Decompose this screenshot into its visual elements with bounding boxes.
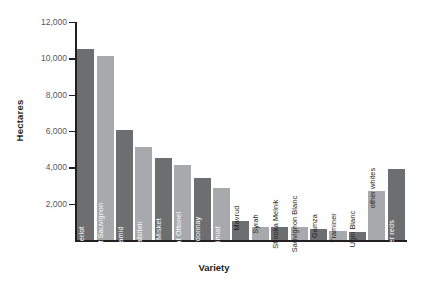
- bar-category-label: Sauvignon Blanc: [290, 196, 299, 252]
- bar-category-label: Cabernet Sauvignon: [96, 203, 105, 271]
- y-axis-tick: [69, 131, 75, 132]
- bar[interactable]: [291, 227, 308, 240]
- y-axis-tick-label: 10,000: [41, 53, 67, 63]
- bar-slot: Traminer: [328, 22, 347, 240]
- bar-chart-figure: Hectares 2,0004,0006,0008,00010,00012,00…: [0, 0, 428, 290]
- bar[interactable]: Red Misket: [155, 158, 172, 240]
- bar[interactable]: other reds: [388, 169, 405, 240]
- y-axis-tick: [69, 167, 75, 168]
- bar-slot: Mavrud: [231, 22, 250, 240]
- y-axis-tick: [69, 22, 75, 23]
- x-axis-title-label: Variety: [198, 262, 229, 273]
- bar-slot: Merlot: [76, 22, 95, 240]
- bar-slot: Red Misket: [154, 22, 173, 240]
- bar-category-label: Dimiat: [213, 226, 222, 247]
- bar[interactable]: Merlot: [77, 49, 94, 240]
- bar[interactable]: [232, 221, 249, 240]
- bar-category-label: Shiroka Melnik: [271, 200, 280, 249]
- bar-category-label: other reds: [387, 220, 396, 254]
- bar-slot: Muscat Ottonel: [173, 22, 192, 240]
- y-axis-title: Hectares: [8, 0, 32, 240]
- bar[interactable]: Muscat Ottonel: [174, 165, 191, 240]
- bar-slot: Pamid: [115, 22, 134, 240]
- y-axis-title-label: Hectares: [15, 99, 26, 141]
- y-axis-tick-label: 2,000: [46, 199, 67, 209]
- y-axis-tick-label: 4,000: [46, 162, 67, 172]
- y-axis-tick-label: 12,000: [41, 17, 67, 27]
- y-axis-tick: [69, 95, 75, 96]
- x-axis-title: Variety: [0, 262, 428, 273]
- bar-slot: Ugni Blanc: [348, 22, 367, 240]
- bar-series: MerlotCabernet SauvignonPamidRkatsiteliR…: [76, 22, 406, 240]
- bar[interactable]: [329, 231, 346, 240]
- bar-slot: Rkatsiteli: [134, 22, 153, 240]
- bar-slot: Gamza: [309, 22, 328, 240]
- bar[interactable]: [310, 229, 327, 240]
- bar-category-label: Merlot: [77, 227, 86, 248]
- bar[interactable]: [271, 227, 288, 240]
- x-axis-line: [75, 240, 407, 242]
- bar-slot: other whites: [367, 22, 386, 240]
- bar-slot: Syrah: [251, 22, 270, 240]
- bar[interactable]: [368, 191, 385, 240]
- bar-category-label: Rkatsiteli: [135, 222, 144, 253]
- bar[interactable]: Chardonnay: [194, 178, 211, 240]
- bar-category-label: Pamid: [116, 226, 125, 247]
- bar-slot: Sauvignon Blanc: [289, 22, 308, 240]
- bar-category-label: Chardonnay: [193, 217, 202, 258]
- bar-slot: Dimiat: [212, 22, 231, 240]
- bar[interactable]: Dimiat: [213, 188, 230, 240]
- bar[interactable]: Rkatsiteli: [135, 147, 152, 240]
- bar-slot: Shiroka Melnik: [270, 22, 289, 240]
- bar[interactable]: Cabernet Sauvignon: [97, 56, 114, 240]
- bar-slot: other reds: [387, 22, 406, 240]
- y-axis-tick: [69, 58, 75, 59]
- bar-category-label: Muscat Ottonel: [174, 212, 183, 262]
- y-axis-tick-label: 6,000: [46, 126, 67, 136]
- y-axis-tick: [69, 204, 75, 205]
- y-axis-tick-label: 8,000: [46, 90, 67, 100]
- plot-area: 2,0004,0006,0008,00010,00012,000 MerlotC…: [76, 22, 406, 240]
- bar-slot: Chardonnay: [192, 22, 211, 240]
- bar[interactable]: Pamid: [116, 130, 133, 240]
- bar[interactable]: [349, 232, 366, 240]
- bar-category-label: Ugni Blanc: [348, 211, 357, 247]
- bar[interactable]: [252, 227, 269, 240]
- bar-slot: Cabernet Sauvignon: [95, 22, 114, 240]
- bar-category-label: Red Misket: [154, 218, 163, 256]
